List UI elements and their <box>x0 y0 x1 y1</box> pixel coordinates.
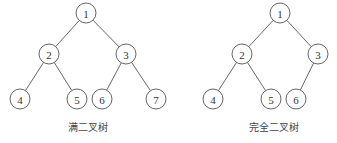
node-label: 2 <box>239 49 245 61</box>
tree-node: 6 <box>92 89 112 109</box>
node-label: 5 <box>268 94 274 106</box>
tree-node: 1 <box>270 3 290 23</box>
node-label: 3 <box>315 49 321 61</box>
tree-node: 3 <box>116 44 136 64</box>
tree-edge <box>93 20 119 47</box>
tree-edge <box>249 20 273 46</box>
tree-edge <box>54 62 71 90</box>
node-label: 5 <box>74 94 80 106</box>
tree-node: 4 <box>10 89 30 109</box>
tree-node: 3 <box>308 44 328 64</box>
node-label: 4 <box>17 94 23 106</box>
tree-node: 2 <box>39 44 59 64</box>
node-label: 6 <box>99 94 105 106</box>
tree-edge <box>247 62 265 90</box>
tree-edge <box>218 62 236 90</box>
node-label: 7 <box>153 94 159 106</box>
node-label: 3 <box>123 49 129 61</box>
tree-node: 1 <box>76 3 96 23</box>
complete-binary-tree: 123456完全二叉树 <box>203 3 328 133</box>
node-label: 6 <box>293 94 299 106</box>
node-label: 1 <box>83 8 89 20</box>
binary-tree-diagram: 1234567满二叉树123456完全二叉树 <box>0 0 337 143</box>
tree-edge <box>107 63 122 90</box>
tree-edge <box>25 62 43 90</box>
tree-edge <box>287 20 311 46</box>
tree-edge <box>56 20 80 46</box>
node-label: 4 <box>210 94 216 106</box>
tree-node: 5 <box>67 89 87 109</box>
tree-caption: 满二叉树 <box>68 121 108 133</box>
node-label: 1 <box>277 8 283 20</box>
full-binary-tree: 1234567满二叉树 <box>10 3 166 133</box>
tree-caption: 完全二叉树 <box>249 121 299 133</box>
tree-node: 2 <box>232 44 252 64</box>
tree-node: 6 <box>286 89 306 109</box>
tree-edge <box>132 62 151 90</box>
tree-node: 7 <box>146 89 166 109</box>
tree-edge <box>300 63 313 90</box>
tree-node: 4 <box>203 89 223 109</box>
node-label: 2 <box>46 49 52 61</box>
tree-node: 5 <box>261 89 281 109</box>
